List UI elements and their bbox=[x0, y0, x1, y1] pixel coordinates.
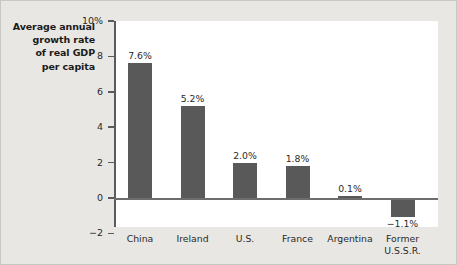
bar bbox=[233, 163, 257, 198]
x-axis-label: FormerU.S.S.R. bbox=[371, 233, 435, 257]
y-tick-label: 8 bbox=[63, 50, 103, 61]
y-axis-title: Average annual growth rate of real GDP p… bbox=[5, 20, 95, 73]
y-axis-title-line-2: growth rate bbox=[5, 33, 95, 46]
bar-value-label: 5.2% bbox=[163, 93, 223, 104]
bar-value-label: 1.8% bbox=[268, 153, 328, 164]
y-tick-label: 6 bbox=[63, 86, 103, 97]
zero-baseline bbox=[114, 198, 438, 200]
bar-value-label: 0.1% bbox=[320, 183, 380, 194]
y-tick-label: 2 bbox=[63, 157, 103, 168]
y-tick-label: 10% bbox=[63, 15, 103, 26]
y-tick-mark bbox=[108, 20, 114, 22]
bar-value-label: 7.6% bbox=[110, 50, 170, 61]
bar bbox=[286, 166, 310, 198]
y-tick-label: 4 bbox=[63, 121, 103, 132]
y-tick-mark bbox=[108, 162, 114, 164]
bar bbox=[391, 198, 415, 217]
x-axis-label-line: Former bbox=[371, 233, 435, 245]
y-tick-label: −2 bbox=[63, 227, 103, 238]
y-tick-label: 0 bbox=[63, 192, 103, 203]
y-tick-mark bbox=[108, 91, 114, 93]
bar bbox=[128, 63, 152, 198]
y-tick-mark bbox=[108, 126, 114, 128]
bar-value-label: −1.1% bbox=[373, 218, 433, 229]
x-axis-label-line: U.S.S.R. bbox=[371, 245, 435, 257]
bar-value-label: 2.0% bbox=[215, 150, 275, 161]
y-axis-title-line-4: per capita bbox=[5, 60, 95, 73]
chart-figure: Average annual growth rate of real GDP p… bbox=[0, 0, 457, 265]
bar bbox=[181, 106, 205, 198]
